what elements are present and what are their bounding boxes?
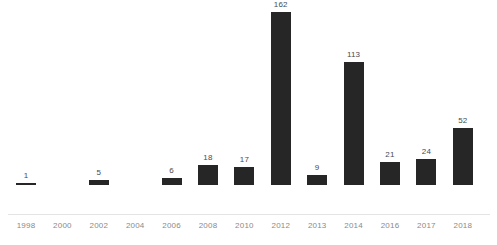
tick-label-2000: 2000	[44, 221, 80, 230]
bar-rect	[453, 128, 473, 185]
bar-2016: 21	[372, 0, 408, 185]
bar-value-label: 162	[274, 0, 288, 10]
tick-label-2013: 2013	[299, 221, 335, 230]
bar-rect	[234, 167, 254, 186]
bar-2013: 9	[299, 0, 335, 185]
bar-2017: 24	[408, 0, 444, 185]
bar-2008: 18	[190, 0, 226, 185]
bar-value-label: 5	[96, 168, 101, 178]
bar-rect	[89, 180, 109, 185]
tick-label-2010: 2010	[226, 221, 262, 230]
bar-2006: 6	[154, 0, 190, 185]
bar-rect	[307, 175, 327, 185]
bar-value-label: 52	[458, 116, 467, 126]
bar-2004	[117, 0, 153, 185]
bar-value-label: 24	[422, 147, 431, 157]
bar-rect	[16, 183, 36, 185]
bar-value-label: 1	[24, 171, 29, 181]
caption-clipped	[12, 239, 482, 245]
tick-label-2018: 2018	[445, 221, 481, 230]
bar-2012: 162	[263, 0, 299, 185]
tick-label-2006: 2006	[154, 221, 190, 230]
tick-label-2008: 2008	[190, 221, 226, 230]
bar-2018: 52	[445, 0, 481, 185]
tick-label-2012: 2012	[263, 221, 299, 230]
bar-rect	[416, 159, 436, 185]
bar-value-label: 18	[203, 153, 212, 163]
bar-value-label: 113	[347, 50, 360, 60]
bar-rect	[380, 162, 400, 185]
bar-rect	[344, 62, 364, 185]
bar-value-label: 17	[240, 155, 249, 165]
tick-label-2014: 2014	[336, 221, 372, 230]
tick-label-2002: 2002	[81, 221, 117, 230]
bar-2000	[44, 0, 80, 185]
bar-value-label: 21	[385, 150, 394, 160]
bar-chart: 15618171629113212452 1998200020022004200…	[0, 0, 497, 245]
bar-2014: 113	[336, 0, 372, 185]
bar-value-label: 9	[315, 163, 320, 173]
tick-label-2017: 2017	[408, 221, 444, 230]
tick-label-2016: 2016	[372, 221, 408, 230]
bar-value-label: 6	[169, 166, 174, 176]
bar-rect	[271, 12, 291, 185]
bar-rect	[162, 178, 182, 185]
bar-2010: 17	[226, 0, 262, 185]
x-axis-line	[8, 214, 490, 215]
bar-1998: 1	[8, 0, 44, 185]
bar-rect	[198, 165, 218, 185]
bar-2002: 5	[81, 0, 117, 185]
plot-area: 15618171629113212452	[0, 0, 497, 215]
tick-label-1998: 1998	[8, 221, 44, 230]
tick-label-2004: 2004	[117, 221, 153, 230]
